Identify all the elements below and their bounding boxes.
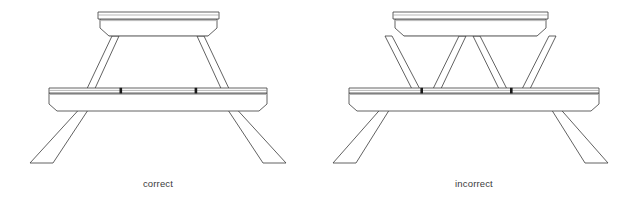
bench-notch-right	[195, 88, 198, 94]
leg-upper-left-inner	[430, 36, 466, 95]
leg-lower-left	[333, 104, 393, 163]
bench-correct	[49, 88, 267, 111]
bench-body	[349, 93, 599, 111]
leg-upper-left	[84, 36, 119, 95]
picnic-table-drawing-incorrect	[316, 0, 632, 180]
leg-upper-right-outer	[519, 36, 556, 95]
figure-incorrect: incorrect	[316, 0, 632, 203]
upper-legs-incorrect	[385, 36, 556, 95]
bench-notch-right	[510, 88, 513, 94]
bench-body	[49, 93, 267, 111]
tabletop-incorrect	[393, 12, 548, 36]
figure-sheet: correct	[0, 0, 632, 203]
lower-legs-correct	[30, 104, 286, 163]
tabletop-plank	[98, 12, 219, 19]
tabletop-apron	[100, 19, 217, 36]
tabletop-correct	[98, 12, 219, 36]
caption-correct: correct	[0, 178, 316, 189]
leg-lower-right	[224, 104, 286, 163]
leg-lower-left	[30, 104, 92, 163]
bench-notch-left	[120, 88, 123, 94]
lower-legs-incorrect	[333, 104, 608, 163]
picnic-table-drawing-correct	[0, 0, 316, 180]
leg-upper-right	[197, 36, 232, 95]
leg-upper-left-outer	[385, 36, 423, 95]
upper-legs-correct	[84, 36, 232, 95]
tabletop-apron	[395, 19, 546, 36]
bench-incorrect	[349, 88, 599, 111]
leg-upper-right-inner	[473, 36, 510, 95]
leg-lower-right	[548, 104, 608, 163]
caption-incorrect: incorrect	[316, 178, 632, 189]
bench-notch-left	[420, 88, 423, 94]
figure-correct: correct	[0, 0, 316, 203]
tabletop-plank	[393, 12, 548, 19]
